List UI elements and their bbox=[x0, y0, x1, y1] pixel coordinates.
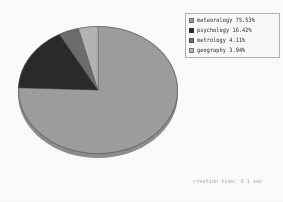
creation-time-caption: creation time: 0.1 sec bbox=[193, 177, 263, 186]
legend-swatch-icon bbox=[189, 18, 194, 23]
pie-slices-svg bbox=[18, 26, 178, 154]
legend: meteorology 75.53% psychology 16.42% met… bbox=[185, 13, 280, 58]
legend-item-label: meteorology 75.53% bbox=[197, 15, 255, 24]
legend-swatch-icon bbox=[189, 28, 194, 33]
chart-canvas: meteorology 75.53% psychology 16.42% met… bbox=[0, 0, 283, 202]
legend-item-label: geography 3.94% bbox=[197, 45, 245, 54]
pie-disc bbox=[18, 26, 178, 154]
legend-swatch-icon bbox=[189, 48, 194, 53]
legend-item-metrology: metrology 4.11% bbox=[189, 36, 277, 44]
pie-chart bbox=[12, 16, 184, 162]
legend-swatch-icon bbox=[189, 38, 194, 43]
legend-item-label: metrology 4.11% bbox=[197, 35, 245, 44]
legend-item-label: psychology 16.42% bbox=[197, 25, 252, 34]
legend-item-meteorology: meteorology 75.53% bbox=[189, 16, 277, 24]
legend-item-geography: geography 3.94% bbox=[189, 46, 277, 54]
legend-item-psychology: psychology 16.42% bbox=[189, 26, 277, 34]
